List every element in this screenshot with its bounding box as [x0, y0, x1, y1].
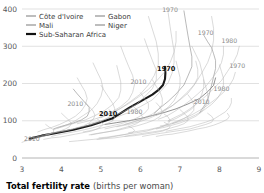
chart-legend: Côte d'IvoireGabonMaliNigerSub-Saharan A…	[26, 13, 131, 39]
annotation-1980-11: 1980	[127, 108, 143, 115]
y-tick-label-400: 400	[3, 5, 18, 14]
y-tick-label-0: 0	[12, 154, 17, 163]
legend-label-0: Côte d'Ivoire	[39, 13, 83, 21]
x-axis-tick-labels: 3456789	[20, 165, 262, 174]
x-tick-label-7: 7	[178, 165, 183, 174]
x-tick-label-3: 3	[20, 165, 25, 174]
annotation-1970-3: 1970	[229, 62, 245, 69]
series-line-30	[89, 103, 162, 135]
x-tick-label-6: 6	[138, 165, 143, 174]
fertility-mortality-chart: 1970197019801970198020102010201020101970…	[0, 0, 264, 193]
annotation-1970-1: 1970	[198, 29, 214, 36]
annotation-2010-10: 2010	[99, 110, 118, 118]
series-line-4	[154, 11, 192, 113]
series-line-34	[101, 16, 158, 117]
series-line-9	[168, 46, 204, 121]
annotation-2010-7: 2010	[67, 100, 83, 107]
x-axis-title-strong: Total fertility rate	[6, 181, 90, 191]
annotation-2010-5: 2010	[194, 98, 210, 105]
series-line-3	[54, 89, 90, 129]
chart-plot-area: 1970197019801970198020102010201020101970…	[0, 0, 264, 193]
x-tick-label-8: 8	[217, 165, 222, 174]
legend-label-3: Niger	[108, 22, 127, 30]
annotation-2010-6: 2010	[131, 78, 147, 85]
annotation-1970-0: 1970	[162, 6, 178, 13]
annotation-2010-8: 2010	[24, 135, 40, 142]
annotation-1970-9: 1970	[157, 65, 176, 73]
series-line-39	[54, 63, 103, 130]
x-tick-label-9: 9	[257, 165, 262, 174]
y-tick-label-300: 300	[3, 42, 18, 51]
y-axis-tick-labels: 0100200300400	[3, 5, 18, 163]
annotation-1980-2: 1980	[222, 37, 238, 44]
legend-label-1: Gabon	[108, 13, 131, 21]
y-tick-label-100: 100	[3, 116, 18, 125]
y-tick-label-200: 200	[3, 79, 18, 88]
x-axis-title-units: (births per woman)	[93, 181, 173, 191]
x-tick-label-5: 5	[99, 165, 104, 174]
annotation-1980-4: 1980	[214, 85, 230, 92]
legend-label-2: Mali	[39, 22, 53, 30]
x-tick-label-4: 4	[59, 165, 64, 174]
legend-label-4: Sub-Saharan Africa	[39, 31, 106, 39]
